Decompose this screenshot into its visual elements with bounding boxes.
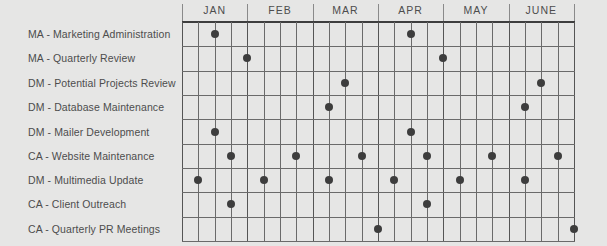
- grid-vline: [525, 22, 526, 241]
- milestone-dot: [227, 200, 235, 208]
- month-label: JAN: [182, 4, 247, 16]
- milestone-dot: [456, 176, 464, 184]
- milestone-dot: [439, 54, 447, 62]
- milestone-dot: [488, 152, 496, 160]
- month-label: FEB: [247, 4, 312, 16]
- grid-vline: [378, 22, 379, 241]
- month-divider-tick: [509, 4, 510, 22]
- month-label: JUNE: [509, 4, 574, 16]
- milestone-dot: [325, 103, 333, 111]
- milestone-dot: [325, 176, 333, 184]
- milestone-dot: [227, 152, 235, 160]
- grid-vline: [460, 22, 461, 241]
- task-label: MA - Quarterly Review: [28, 52, 135, 64]
- grid-hline: [182, 168, 575, 169]
- month-label: MAR: [313, 4, 378, 16]
- milestone-dot: [521, 176, 529, 184]
- grid-vline: [231, 22, 232, 241]
- grid-vline: [541, 22, 542, 241]
- timeline-chart: JANFEBMARAPRMAYJUNEMA - Marketing Admini…: [0, 0, 607, 246]
- grid-vline: [509, 22, 510, 241]
- grid-vline: [280, 22, 281, 241]
- milestone-dot: [390, 176, 398, 184]
- milestone-dot: [554, 152, 562, 160]
- milestone-dot: [570, 225, 578, 233]
- grid-hline: [182, 217, 575, 218]
- milestone-dot: [537, 79, 545, 87]
- task-label: DM - Multimedia Update: [28, 174, 143, 186]
- grid-vline: [492, 22, 493, 241]
- milestone-dot: [407, 128, 415, 136]
- grid-hline: [182, 192, 575, 193]
- grid-vline: [427, 22, 428, 241]
- grid-vline: [574, 22, 575, 241]
- grid-hline: [182, 119, 575, 120]
- milestone-dot: [341, 79, 349, 87]
- grid-vline: [394, 22, 395, 241]
- grid-hline: [182, 46, 575, 47]
- grid-hline: [182, 71, 575, 72]
- grid-vline: [362, 22, 363, 241]
- task-label: MA - Marketing Administration: [28, 28, 170, 40]
- grid-vline: [264, 22, 265, 241]
- milestone-dot: [407, 30, 415, 38]
- milestone-dot: [211, 128, 219, 136]
- task-label: CA - Website Maintenance: [28, 150, 155, 162]
- milestone-dot: [521, 103, 529, 111]
- milestone-dot: [292, 152, 300, 160]
- grid-vline: [198, 22, 199, 241]
- task-label: DM - Mailer Development: [28, 126, 149, 138]
- grid-vline: [296, 22, 297, 241]
- milestone-dot: [423, 200, 431, 208]
- milestone-dot: [358, 152, 366, 160]
- grid-vline: [558, 22, 559, 241]
- month-divider-tick: [574, 4, 575, 22]
- task-label: CA - Client Outreach: [28, 198, 126, 210]
- month-divider-tick: [247, 4, 248, 22]
- milestone-dot: [374, 225, 382, 233]
- grid-hline: [182, 144, 575, 145]
- milestone-dot: [423, 152, 431, 160]
- milestone-dot: [260, 176, 268, 184]
- grid-hline: [182, 95, 575, 96]
- grid-hline: [182, 241, 575, 242]
- grid-vline: [476, 22, 477, 241]
- milestone-dot: [211, 30, 219, 38]
- grid-vline: [182, 22, 183, 241]
- milestone-dot: [243, 54, 251, 62]
- task-label: DM - Database Maintenance: [28, 101, 164, 113]
- month-label: APR: [378, 4, 443, 16]
- milestone-dot: [194, 176, 202, 184]
- month-divider-tick: [378, 4, 379, 22]
- month-label: MAY: [443, 4, 508, 16]
- grid-vline: [313, 22, 314, 241]
- grid-vline: [329, 22, 330, 241]
- month-divider-tick: [182, 4, 183, 22]
- task-label: CA - Quarterly PR Meetings: [28, 223, 160, 235]
- grid-vline: [345, 22, 346, 241]
- month-divider-tick: [443, 4, 444, 22]
- month-divider-tick: [313, 4, 314, 22]
- task-label: DM - Potential Projects Review: [28, 77, 176, 89]
